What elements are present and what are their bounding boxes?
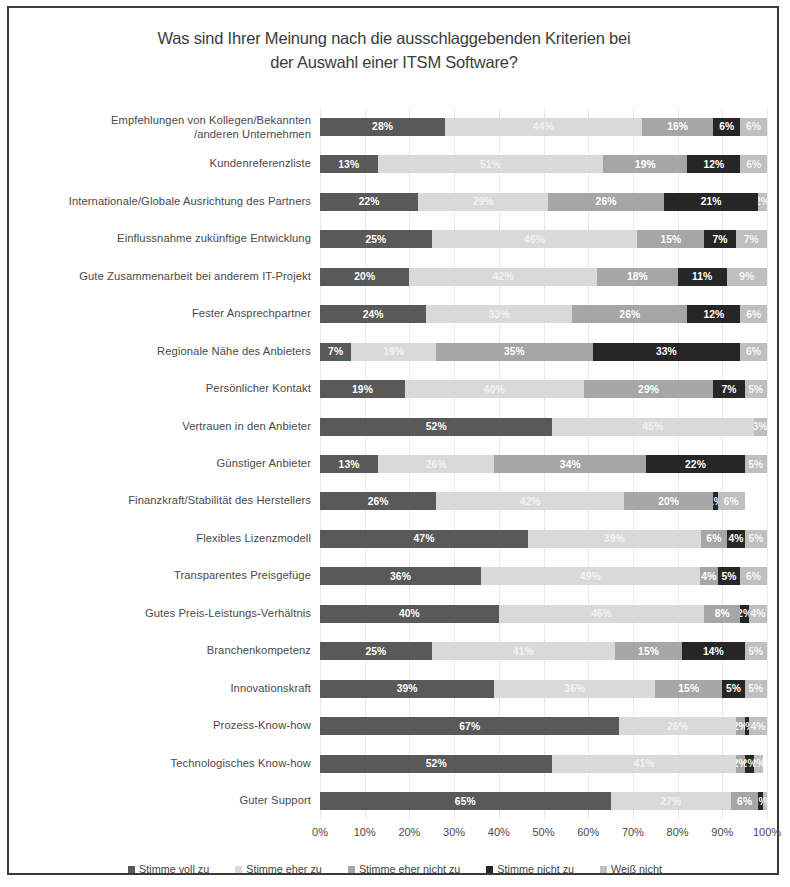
bar-segment: 6% — [731, 792, 758, 810]
stacked-bar: 40%46%8%2%4% — [320, 605, 767, 623]
bar-row: Guter Support65%27%6%1%1% — [320, 792, 767, 810]
bar-segment: 15% — [637, 230, 704, 248]
legend-label: Stimme eher nicht zu — [359, 863, 460, 875]
bar-segment: 21% — [664, 193, 758, 211]
bar-segment: 5% — [745, 455, 767, 473]
stacked-bar: 47%39%6%4%5% — [320, 530, 767, 548]
x-tick-label: 40% — [488, 826, 510, 838]
bar-segment: 7% — [704, 230, 735, 248]
stacked-bar: 67%26%2%1%4% — [320, 717, 767, 735]
segment-value-label: 5% — [726, 683, 741, 694]
stacked-bar: 25%46%15%7%7% — [320, 230, 767, 248]
bar-row: Branchenkompetenz25%41%15%14%5% — [320, 642, 767, 660]
segment-value-label: 19% — [383, 346, 404, 357]
bar-segment: 44% — [445, 118, 642, 136]
category-label: Prozess-Know-how — [213, 720, 311, 734]
bar-row: Flexibles Lizenzmodell47%39%6%4%5% — [320, 530, 767, 548]
segment-value-label: 26% — [667, 721, 688, 732]
segment-value-label: 41% — [513, 646, 534, 657]
bar-segment: 42% — [436, 492, 624, 510]
bar-segment: 15% — [655, 680, 722, 698]
segment-value-label: 51% — [480, 159, 501, 170]
category-label: Vertrauen in den Anbieter — [182, 420, 311, 434]
gridline-100 — [767, 108, 768, 820]
segment-value-label: 5% — [748, 683, 763, 694]
bar-segment: 39% — [528, 530, 701, 548]
legend-item[interactable]: Weiß nicht — [600, 863, 662, 875]
stacked-bar: 25%41%15%14%5% — [320, 642, 767, 660]
bar-segment: 40% — [320, 605, 499, 623]
bar-segment: 12% — [687, 305, 740, 323]
segment-value-label: 22% — [685, 459, 706, 470]
bar-segment: 39% — [320, 680, 494, 698]
segment-value-label: 3% — [754, 421, 767, 432]
segment-value-label: 2% — [758, 196, 767, 207]
bar-segment: 26% — [548, 193, 664, 211]
bar-segment: 29% — [418, 193, 548, 211]
bar-row: Kundenreferenzliste13%51%19%12%6% — [320, 155, 767, 173]
bar-segment: 18% — [597, 268, 677, 286]
segment-value-label: 26% — [368, 496, 389, 507]
segment-value-label: 4% — [728, 533, 743, 544]
segment-value-label: 33% — [489, 309, 510, 320]
bar-segment: 2% — [754, 755, 763, 773]
x-tick-label: 30% — [443, 826, 465, 838]
chart-frame: Was sind Ihrer Meinung nach die ausschla… — [7, 6, 779, 875]
segment-value-label: 39% — [604, 533, 625, 544]
segment-value-label: 7% — [744, 234, 759, 245]
segment-value-label: 18% — [627, 271, 648, 282]
bar-segment: 67% — [320, 717, 619, 735]
bar-row: Innovationskraft39%36%15%5%5% — [320, 680, 767, 698]
segment-value-label: 20% — [354, 271, 375, 282]
legend-item[interactable]: Stimme eher zu — [235, 863, 322, 875]
bar-segment: 46% — [499, 605, 705, 623]
chart-title-line-2: der Auswahl einer ITSM Software? — [49, 50, 739, 74]
bar-segment: 2% — [736, 755, 745, 773]
segment-value-label: 25% — [365, 234, 386, 245]
bar-segment: 4% — [749, 717, 767, 735]
segment-value-label: 6% — [724, 496, 739, 507]
segment-value-label: 19% — [635, 159, 656, 170]
stacked-bar: 36%49%4%5%6% — [320, 567, 767, 585]
bar-segment: 26% — [619, 717, 735, 735]
bar-segment: 5% — [718, 567, 740, 585]
bar-segment: 4% — [727, 530, 745, 548]
segment-value-label: 36% — [390, 571, 411, 582]
bar-row: Prozess-Know-how67%26%2%1%4% — [320, 717, 767, 735]
legend-item[interactable]: Stimme eher nicht zu — [348, 863, 460, 875]
segment-value-label: 42% — [493, 271, 514, 282]
segment-value-label: 6% — [746, 159, 761, 170]
segment-value-label: 6% — [746, 571, 761, 582]
bar-segment: 6% — [701, 530, 728, 548]
segment-value-label: 40% — [399, 608, 420, 619]
bar-segment: 41% — [552, 755, 735, 773]
segment-value-label: 1% — [763, 796, 767, 807]
legend-label: Weiß nicht — [611, 863, 662, 875]
segment-value-label: 7% — [328, 346, 343, 357]
legend-item[interactable]: Stimme voll zu — [128, 863, 209, 875]
bar-segment: 5% — [722, 680, 744, 698]
segment-value-label: 26% — [596, 196, 617, 207]
bar-segment: 36% — [320, 567, 481, 585]
segment-value-label: 46% — [591, 608, 612, 619]
category-label: Internationale/Globale Ausrichtung des P… — [69, 195, 311, 209]
segment-value-label: 29% — [473, 196, 494, 207]
bar-row: Internationale/Globale Ausrichtung des P… — [320, 193, 767, 211]
legend-item[interactable]: Stimme nicht zu — [486, 863, 574, 875]
legend-label: Stimme voll zu — [139, 863, 209, 875]
segment-value-label: 2% — [754, 758, 763, 769]
bar-segment: 6% — [740, 567, 767, 585]
category-label: Flexibles Lizenzmodell — [196, 532, 311, 546]
bar-segment: 28% — [320, 118, 445, 136]
bar-segment: 52% — [320, 755, 552, 773]
bar-segment: 14% — [682, 642, 745, 660]
segment-value-label: 65% — [455, 796, 476, 807]
segment-value-label: 67% — [459, 721, 480, 732]
segment-value-label: 5% — [748, 384, 763, 395]
segment-value-label: 6% — [706, 533, 721, 544]
stacked-bar: 13%26%34%22%5% — [320, 455, 767, 473]
segment-value-label: 52% — [426, 421, 447, 432]
bar-segment: 33% — [593, 343, 741, 361]
bar-segment: 45% — [552, 418, 753, 436]
segment-value-label: 7% — [721, 384, 736, 395]
